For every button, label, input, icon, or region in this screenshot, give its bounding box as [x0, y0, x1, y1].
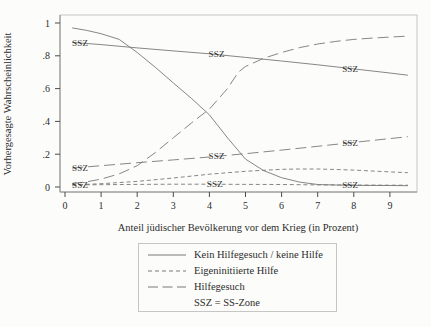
legend-label: SSZ = SS-Zone	[194, 298, 260, 309]
curve-label-ssz: SSZ	[209, 151, 225, 161]
x-axis-title: Anteil jüdischer Bevölkerung vor dem Kri…	[118, 222, 359, 234]
x-tick-label: 6	[279, 200, 284, 211]
x-tick-label: 9	[387, 200, 392, 211]
y-tick-label: .8	[43, 50, 51, 61]
x-tick-label: 1	[99, 200, 104, 211]
y-tick-label: .4	[43, 116, 51, 127]
curve-kein-hilfegesuch-keine-hilfe-non-ssz	[72, 28, 408, 186]
legend-item-hilfegesuch: Hilfegesuch	[146, 279, 336, 295]
curve-label-ssz: SSZ	[342, 180, 358, 190]
y-tick-label: .6	[43, 83, 51, 94]
curve-label-ssz: SSZ	[72, 163, 88, 173]
legend-line-sample-long	[146, 281, 188, 293]
predicted-probability-figure: 0.2.4.6.810123456789SSZSSZSSZSSZSSZSSZSS…	[0, 0, 431, 327]
legend-label: Eigeninitiierte Hilfe	[194, 266, 278, 277]
legend-item-ssz-ss-zone: SSZ = SS-Zone	[146, 296, 336, 312]
x-tick-label: 4	[207, 200, 212, 211]
curve-hilfegesuch-non-ssz	[72, 36, 408, 184]
legend-line-sample-solid	[146, 249, 188, 261]
legend-label: Hilfegesuch	[194, 282, 245, 293]
legend-label: Kein Hilfegesuch / keine Hilfe	[194, 250, 323, 261]
x-tick-label: 5	[243, 200, 248, 211]
legend-rows: Kein Hilfegesuch / keine HilfeEigeniniti…	[146, 247, 336, 312]
curve-label-ssz: SSZ	[342, 64, 358, 74]
legend-sample-blank	[146, 298, 188, 310]
x-tick-label: 3	[171, 200, 176, 211]
legend: Kein Hilfegesuch / keine HilfeEigeniniti…	[138, 243, 337, 312]
y-tick-label: 1	[45, 18, 50, 29]
legend-line-sample-short	[146, 265, 188, 277]
curve-label-ssz: SSZ	[207, 179, 223, 189]
y-tick-label: 0	[45, 182, 50, 193]
x-tick-label: 2	[135, 200, 140, 211]
curve-label-ssz: SSZ	[72, 38, 88, 48]
curve-label-ssz: SSZ	[72, 180, 88, 190]
legend-item-kein-hilfegesuch-keine-hilfe: Kein Hilfegesuch / keine Hilfe	[146, 247, 336, 263]
plot-frame	[60, 15, 417, 192]
x-tick-label: 7	[315, 200, 320, 211]
legend-item-eigeninitiierte-hilfe: Eigeninitiierte Hilfe	[146, 263, 336, 279]
curve-label-ssz: SSZ	[342, 138, 358, 148]
curve-label-ssz: SSZ	[209, 49, 225, 59]
y-axis-title: Vorhergesagte Wahrscheinlichkeit	[2, 32, 13, 175]
y-tick-label: .2	[43, 149, 51, 160]
x-tick-label: 0	[63, 200, 68, 211]
x-tick-label: 8	[351, 200, 356, 211]
